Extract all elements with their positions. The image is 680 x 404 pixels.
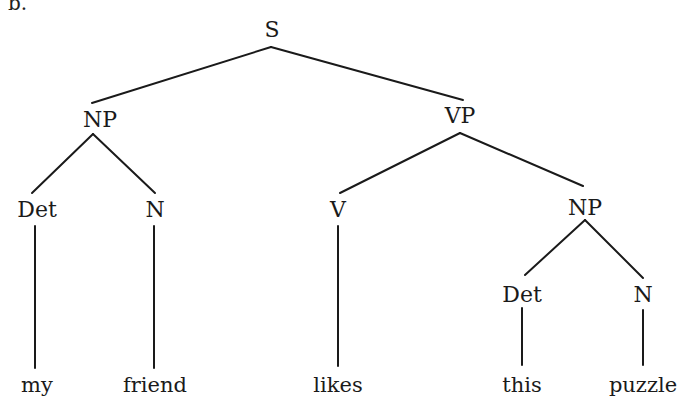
leaf-word: likes	[313, 375, 362, 396]
node-n-object: N	[633, 284, 652, 306]
node-vp: VP	[445, 105, 476, 127]
tree-edge	[340, 133, 460, 193]
tree-edge	[585, 220, 643, 278]
tree-edge	[525, 220, 585, 275]
leaf-word: puzzle	[609, 375, 677, 396]
node-det-object: Det	[502, 284, 542, 306]
tree-edge	[271, 47, 463, 100]
tree-edge	[32, 134, 93, 193]
leaf-word: my	[21, 375, 53, 396]
node-det-subject: Det	[17, 199, 57, 221]
tree-edge	[460, 133, 583, 186]
node-np-object: NP	[568, 197, 602, 219]
node-v: V	[330, 199, 346, 221]
node-n-subject: N	[145, 199, 164, 221]
leaf-word: friend	[123, 375, 187, 396]
node-np-subject: NP	[83, 109, 117, 131]
leaf-word: this	[502, 375, 541, 396]
tree-edge	[93, 134, 155, 193]
node-s: S	[264, 19, 279, 41]
tree-edge	[92, 47, 271, 103]
